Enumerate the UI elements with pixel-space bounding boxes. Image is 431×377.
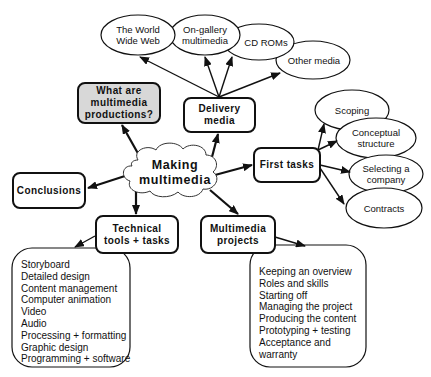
- list-item: Computer animation: [21, 294, 130, 306]
- list-item: Managing the project: [259, 301, 356, 313]
- label-line1: Technical: [113, 223, 162, 235]
- label-line1: Selecting a: [362, 163, 409, 174]
- label-line2: multimedia: [91, 97, 148, 109]
- label-line1: Multimedia: [210, 223, 266, 235]
- list-item: Content management: [21, 283, 130, 295]
- label-line2: projects: [217, 235, 259, 247]
- label-line2: structure: [358, 138, 395, 149]
- label-line2: tools + tasks: [104, 235, 170, 247]
- list-item: Audio: [21, 318, 130, 330]
- node-conceptual-structure: Conceptual structure: [336, 118, 416, 158]
- projects-items-list: Keeping an overview Roles and skills Sta…: [259, 266, 356, 360]
- node-other-media: Other media: [278, 41, 350, 79]
- list-item: Video: [21, 306, 130, 318]
- label-line1: Delivery: [198, 103, 240, 115]
- node-making-multimedia: Making multimedia: [126, 154, 224, 192]
- list-item: Acceptance and: [259, 337, 356, 349]
- node-what-are-multimedia-productions: What are multimedia productions?: [77, 82, 161, 124]
- label-line1: On-gallery: [183, 24, 227, 35]
- list-item: Roles and skills: [259, 278, 356, 290]
- label: Contracts: [364, 203, 405, 214]
- list-item: warranty: [259, 349, 356, 361]
- list-item: Prototyping + testing: [259, 325, 356, 337]
- node-contracts: Contracts: [346, 188, 422, 228]
- label-line3: productions?: [85, 109, 154, 121]
- node-multimedia-projects: Multimedia projects: [200, 215, 276, 254]
- label-line2: multimedia: [182, 35, 228, 46]
- list-item: Storyboard: [21, 259, 130, 271]
- label-line1: Conceptual: [352, 127, 400, 138]
- label: Conclusions: [17, 185, 81, 197]
- technical-items-list: Storyboard Detailed design Content manag…: [21, 259, 130, 365]
- node-delivery-media: Delivery media: [183, 97, 256, 133]
- list-item: Programming + software: [21, 353, 130, 365]
- label: Scoping: [335, 105, 369, 116]
- label-line1: What are: [96, 85, 141, 97]
- list-item: Keeping an overview: [259, 266, 356, 278]
- node-technical-tools-tasks: Technical tools + tasks: [95, 215, 179, 254]
- label-line1: The World: [116, 24, 160, 35]
- label: Other media: [288, 55, 340, 66]
- label: First tasks: [260, 159, 314, 171]
- node-world-wide-web: The World Wide Web: [101, 15, 175, 55]
- label-line2: Wide Web: [116, 35, 160, 46]
- list-item: Starting off: [259, 290, 356, 302]
- list-item: Graphic design: [21, 342, 130, 354]
- label-line2: company: [367, 174, 406, 185]
- list-item: Detailed design: [21, 271, 130, 283]
- node-first-tasks: First tasks: [253, 147, 321, 183]
- list-item: Producing the content: [259, 313, 356, 325]
- label-line2: media: [204, 115, 235, 127]
- label-line1: Making: [152, 158, 199, 173]
- label-line2: multimedia: [139, 173, 211, 188]
- node-conclusions: Conclusions: [12, 172, 86, 209]
- node-on-gallery-multimedia: On-gallery multimedia: [170, 15, 240, 55]
- list-item: Processing + formatting: [21, 330, 130, 342]
